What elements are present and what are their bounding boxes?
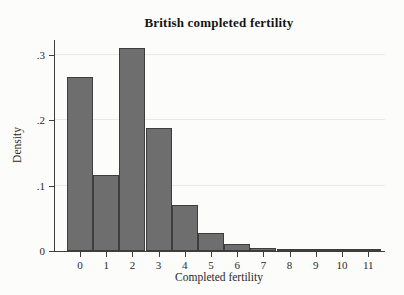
bar-10 (329, 249, 355, 251)
bar-6 (224, 244, 250, 251)
y-tick-.1 (49, 186, 54, 187)
bar-8 (277, 249, 303, 251)
bar-1 (93, 175, 119, 251)
x-tick-2 (132, 252, 133, 257)
y-tick-label-.1: .1 (23, 180, 45, 193)
y-tick-label-.3: .3 (23, 49, 45, 62)
chart-title: British completed fertility (54, 15, 384, 31)
bar-0 (67, 77, 93, 251)
x-tick-label-4: 4 (173, 259, 197, 272)
x-tick-label-11: 11 (356, 259, 380, 272)
x-tick-4 (185, 252, 186, 257)
x-tick-1 (106, 252, 107, 257)
x-tick-5 (211, 252, 212, 257)
x-tick-0 (80, 252, 81, 257)
y-tick-label-0: 0 (23, 245, 45, 258)
gridline-.3 (55, 54, 385, 55)
x-tick-label-10: 10 (330, 259, 354, 272)
bar-11 (355, 249, 381, 251)
bar-3 (146, 128, 172, 251)
x-tick-label-3: 3 (147, 259, 171, 272)
x-tick-8 (290, 252, 291, 257)
x-tick-label-5: 5 (199, 259, 223, 272)
bar-2 (119, 48, 145, 251)
x-tick-6 (237, 252, 238, 257)
x-axis-label: Completed fertility (54, 271, 384, 283)
y-tick-.2 (49, 120, 54, 121)
x-tick-label-8: 8 (278, 259, 302, 272)
y-axis-label: Density (11, 127, 23, 163)
x-tick-label-0: 0 (68, 259, 92, 272)
bar-5 (198, 233, 224, 251)
fertility-histogram-figure: British completed fertility Density Comp… (0, 0, 404, 295)
plot-area (54, 40, 385, 252)
x-tick-9 (316, 252, 317, 257)
y-tick-.3 (49, 55, 54, 56)
x-tick-3 (159, 252, 160, 257)
x-tick-label-2: 2 (120, 259, 144, 272)
x-tick-label-6: 6 (225, 259, 249, 272)
x-tick-11 (368, 252, 369, 257)
x-tick-label-7: 7 (251, 259, 275, 272)
y-tick-0 (49, 251, 54, 252)
bar-9 (303, 249, 329, 251)
gridline-.2 (55, 119, 385, 120)
y-tick-label-.2: .2 (23, 114, 45, 127)
x-tick-10 (342, 252, 343, 257)
x-tick-7 (263, 252, 264, 257)
bar-7 (250, 248, 276, 251)
x-tick-label-9: 9 (304, 259, 328, 272)
x-tick-label-1: 1 (94, 259, 118, 272)
bar-4 (172, 205, 198, 251)
